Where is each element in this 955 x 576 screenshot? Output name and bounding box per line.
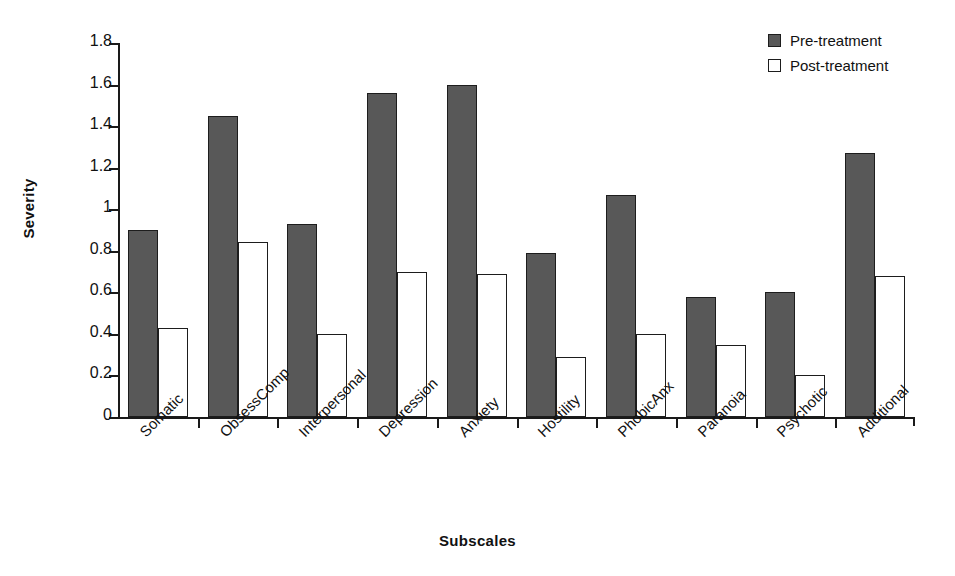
y-axis-tick-label: 1.8 (72, 32, 112, 50)
y-axis-title: Severity (20, 159, 37, 259)
bar-pre-interpersonal (287, 224, 317, 417)
bar-pre-psychotic (765, 292, 795, 417)
x-axis-group-tick (277, 419, 279, 428)
y-axis-line (118, 43, 120, 418)
x-axis-group-tick (756, 419, 758, 428)
legend-label: Pre-treatment (790, 32, 882, 49)
x-axis-group-tick (596, 419, 598, 428)
plot-area: 1.81.61.41.210.80.60.40.20 (118, 43, 915, 417)
x-axis-group-tick (835, 419, 837, 428)
bar-pre-additional (845, 153, 875, 417)
y-axis-tick-label: 0.6 (72, 281, 112, 299)
x-axis-group-tick (198, 419, 200, 428)
x-axis-group-tick (437, 419, 439, 428)
x-axis-endcap (913, 417, 915, 426)
x-axis-group-tick (676, 419, 678, 428)
y-axis-tick-label: 1.2 (72, 157, 112, 175)
y-axis-tick-label: 1.4 (72, 115, 112, 133)
x-axis-title: Subscales (0, 532, 955, 549)
bar-pre-anxiety (447, 85, 477, 417)
legend-item-post: Post-treatment (768, 53, 888, 78)
bar-pre-depression (367, 93, 397, 417)
legend-label: Post-treatment (790, 57, 888, 74)
y-axis-tick-label: 0.2 (72, 364, 112, 382)
chart-legend: Pre-treatmentPost-treatment (768, 28, 888, 78)
legend-item-pre: Pre-treatment (768, 28, 888, 53)
legend-swatch-pre-icon (768, 34, 781, 47)
y-axis-tick-label: 1.6 (72, 74, 112, 92)
y-axis-tick-label: 0.8 (72, 240, 112, 258)
bar-chart: Severity 1.81.61.41.210.80.60.40.20 Soma… (0, 0, 955, 576)
bar-pre-phobicanx (606, 195, 636, 417)
y-axis-tick-label: 0 (72, 406, 112, 424)
legend-swatch-post-icon (768, 59, 781, 72)
bar-pre-hostility (526, 253, 556, 417)
bar-pre-somatic (128, 230, 158, 417)
bar-pre-paranoia (686, 297, 716, 418)
x-axis-group-tick (517, 419, 519, 428)
bar-pre-obsesscomp (208, 116, 238, 417)
y-axis-tick-label: 1 (72, 198, 112, 216)
y-axis-tick-label: 0.4 (72, 323, 112, 341)
x-axis-group-tick (357, 419, 359, 428)
